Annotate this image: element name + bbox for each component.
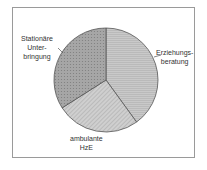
pie-slices bbox=[54, 28, 158, 132]
slice-label-erziehungsberatung: Erziehungs- beratung bbox=[156, 48, 193, 66]
label-line: Erziehungs- bbox=[156, 48, 193, 57]
slice-label-ambulante-hze: ambulante HzE bbox=[70, 134, 103, 152]
pie-chart bbox=[0, 0, 207, 170]
label-line: Stationäre bbox=[21, 34, 53, 43]
label-line: ambulante bbox=[70, 134, 103, 143]
label-line: HzE bbox=[70, 143, 103, 152]
label-line: Unter- bbox=[21, 43, 53, 52]
label-line: bringung bbox=[21, 52, 53, 61]
slice-label-stationaere-unterbringung: Stationäre Unter- bringung bbox=[21, 34, 53, 61]
label-line: beratung bbox=[156, 57, 193, 66]
